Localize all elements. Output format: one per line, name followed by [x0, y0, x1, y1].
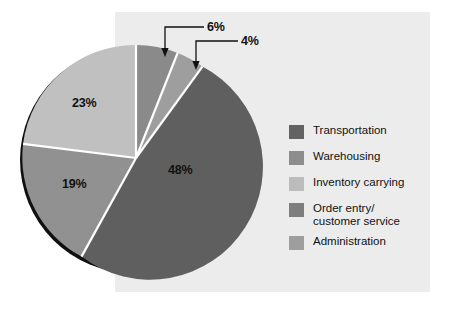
- legend-label-transportation: Transportation: [313, 124, 387, 137]
- legend-label-warehousing: Warehousing: [313, 150, 380, 163]
- callout-value-administration: 4%: [241, 34, 259, 48]
- legend-swatch-transportation: [289, 125, 304, 139]
- legend-item-transportation[interactable]: Transportation: [289, 124, 439, 142]
- legend-label-order-entry: Order entry/ customer service: [313, 202, 400, 227]
- slice-value-inventory-carrying: 23%: [72, 96, 96, 110]
- slice-value-transportation: 48%: [168, 163, 192, 177]
- callout-value-order-entry: 6%: [207, 20, 225, 34]
- legend-item-warehousing[interactable]: Warehousing: [289, 150, 439, 168]
- legend-item-order-entry[interactable]: Order entry/ customer service: [289, 202, 439, 227]
- legend-swatch-order-entry: [289, 203, 304, 217]
- legend-label-inventory-carrying: Inventory carrying: [313, 176, 404, 189]
- legend-swatch-warehousing: [289, 151, 304, 165]
- chart-legend: Transportation Warehousing Inventory car…: [289, 124, 439, 253]
- legend-swatch-inventory-carrying: [289, 177, 304, 191]
- legend-swatch-administration: [289, 236, 304, 250]
- chart-screenshot: 48% 19% 23% 6% 4% Transportation Warehou…: [0, 0, 460, 310]
- legend-item-inventory-carrying[interactable]: Inventory carrying: [289, 176, 439, 194]
- legend-label-administration: Administration: [313, 235, 386, 248]
- slice-value-warehousing: 19%: [62, 177, 86, 191]
- legend-item-administration[interactable]: Administration: [289, 235, 439, 253]
